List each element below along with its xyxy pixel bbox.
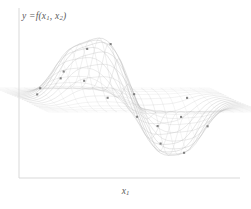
mesh-line bbox=[29, 64, 243, 141]
mesh-line bbox=[63, 40, 117, 112]
data-point-marker bbox=[110, 43, 112, 45]
data-point-marker bbox=[133, 93, 135, 95]
data-point-marker bbox=[83, 80, 85, 82]
data-point-marker bbox=[160, 143, 162, 145]
data-point-marker bbox=[39, 87, 41, 89]
y-axis-label: y =f(x1, x2) bbox=[22, 11, 66, 21]
y-axis-label-close: ) bbox=[63, 11, 66, 21]
mesh-line bbox=[12, 68, 226, 124]
wireframe-mesh bbox=[0, 38, 251, 156]
figure-canvas: y =f(x1, x2) x1 bbox=[0, 0, 251, 209]
data-point-marker bbox=[136, 116, 138, 118]
surface-plot bbox=[0, 0, 251, 209]
mesh-line bbox=[10, 76, 224, 113]
data-point-marker bbox=[86, 48, 88, 50]
data-point-marker bbox=[183, 152, 185, 154]
data-point-marker bbox=[36, 93, 38, 95]
data-point-marker bbox=[180, 116, 182, 118]
data-point-marker bbox=[207, 125, 209, 127]
data-point-marker bbox=[157, 125, 159, 127]
y-axis-label-equals: = bbox=[29, 11, 36, 21]
data-point-marker bbox=[107, 97, 109, 99]
mesh-line bbox=[122, 88, 176, 138]
data-point-marker bbox=[186, 97, 188, 99]
data-point-marker bbox=[60, 77, 62, 79]
data-point-marker bbox=[63, 70, 65, 72]
mesh-line bbox=[27, 52, 241, 149]
x-axis-label-sub: 1 bbox=[126, 189, 129, 196]
x-axis-label: x1 bbox=[0, 186, 251, 196]
